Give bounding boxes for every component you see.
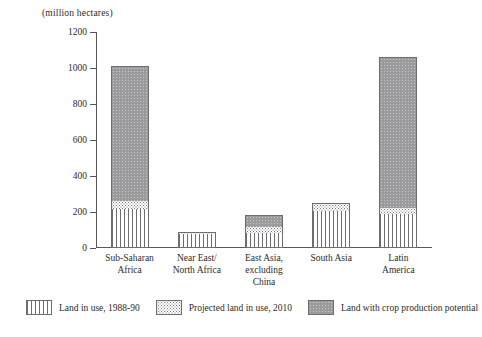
bar-segment: [111, 209, 149, 248]
bar-2: [178, 232, 216, 248]
bar-segment: [111, 201, 149, 209]
bar-segment: [245, 215, 283, 228]
bar-segment: [379, 57, 417, 207]
bar-segment: [312, 211, 350, 248]
legend-item-3[interactable]: Land with crop production potential: [308, 300, 478, 315]
bar-segment: [111, 66, 149, 201]
bar-segment: [379, 214, 417, 248]
bar-segment: [245, 233, 283, 248]
y-axis-tick-label: 400: [73, 171, 87, 181]
x-axis-label-line: America: [355, 264, 441, 276]
y-axis-tick-mark: [90, 140, 96, 141]
bar-segment: [312, 203, 350, 211]
bar-segment: [178, 234, 216, 248]
legend-label: Land with crop production potential: [341, 303, 478, 313]
y-axis-tick-label: 800: [73, 99, 87, 109]
x-axis-label-line: Latin: [355, 252, 441, 264]
y-axis-tick-mark: [90, 248, 96, 249]
bar-4: [312, 203, 350, 248]
legend-label: Projected land in use, 2010: [189, 303, 292, 313]
y-axis-tick-label: 1200: [68, 27, 87, 37]
legend-swatch-icon: [26, 300, 52, 315]
legend-item-1[interactable]: Land in use, 1988-90: [26, 300, 140, 315]
legend-label: Land in use, 1988-90: [59, 303, 140, 313]
bar-1: [111, 66, 149, 248]
x-axis-label-line: China: [221, 276, 307, 288]
chart-legend: Land in use, 1988-90Projected land in us…: [26, 300, 466, 315]
x-axis-label-line: excluding: [221, 264, 307, 276]
legend-item-2[interactable]: Projected land in use, 2010: [156, 300, 292, 315]
legend-swatch-icon: [308, 300, 334, 315]
x-axis-label-5: LatinAmerica: [355, 252, 441, 276]
y-axis-tick-label: 1000: [68, 63, 87, 73]
y-axis-line: [96, 32, 97, 248]
plot-area: 020040060080010001200: [96, 32, 432, 248]
y-axis-tick-mark: [90, 212, 96, 213]
y-axis-tick-label: 200: [73, 207, 87, 217]
bar-5: [379, 57, 417, 248]
y-axis-tick-mark: [90, 176, 96, 177]
y-axis-tick-mark: [90, 104, 96, 105]
y-axis-tick-mark: [90, 32, 96, 33]
bar-3: [245, 215, 283, 248]
y-axis-tick-mark: [90, 68, 96, 69]
y-axis-tick-label: 600: [73, 135, 87, 145]
legend-swatch-icon: [156, 300, 182, 315]
y-axis-unit-title: (million hectares): [42, 8, 113, 18]
